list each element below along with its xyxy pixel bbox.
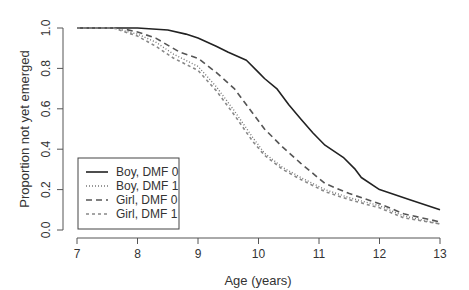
legend-label: Boy, DMF 0	[116, 165, 179, 179]
x-tick-label: 7	[74, 247, 81, 261]
x-axis-label: Age (years)	[224, 273, 291, 288]
legend-label: Girl, DMF 0	[116, 193, 178, 207]
legend-label: Boy, DMF 1	[116, 179, 179, 193]
x-tick-label: 12	[373, 247, 387, 261]
x-tick-label: 11	[313, 247, 326, 261]
y-tick-label: 0.0	[39, 221, 53, 238]
y-tick-label: 0.2	[39, 181, 53, 198]
x-tick-label: 10	[252, 247, 266, 261]
y-axis-label: Proportion not yet emerged	[17, 50, 32, 208]
x-tick-label: 9	[195, 247, 202, 261]
y-tick-label: 1.0	[39, 19, 53, 36]
x-tick-label: 8	[134, 247, 141, 261]
y-tick-label: 0.8	[39, 60, 53, 77]
y-tick-label: 0.4	[39, 141, 53, 158]
x-tick-label: 13	[433, 247, 447, 261]
y-tick-label: 0.6	[39, 100, 53, 117]
survival-chart: 0.00.20.40.60.81.0 78910111213 Proportio…	[0, 0, 469, 290]
legend-label: Girl, DMF 1	[116, 207, 178, 221]
legend: Boy, DMF 0Boy, DMF 1Girl, DMF 0Girl, DMF…	[78, 158, 179, 229]
x-axis: 78910111213	[74, 238, 447, 261]
y-axis: 0.00.20.40.60.81.0	[39, 19, 63, 238]
